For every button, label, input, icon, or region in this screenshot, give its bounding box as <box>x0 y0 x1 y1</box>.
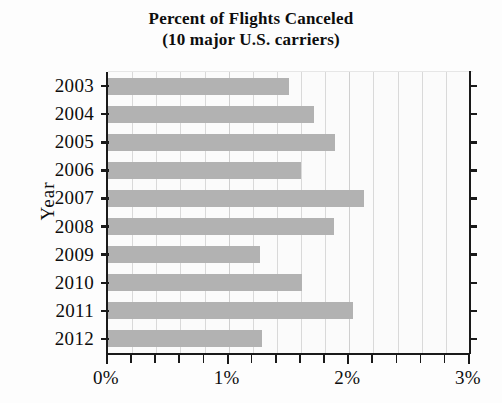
x-tick <box>154 355 156 363</box>
bar-2003 <box>108 78 289 95</box>
x-tick <box>420 355 422 363</box>
x-tick <box>444 355 446 363</box>
y-axis-tick-label-2003: 2003 <box>8 76 94 95</box>
bar-2004 <box>108 106 314 123</box>
y-tick-2003 <box>101 85 109 88</box>
y-axis-tick-label-2009: 2009 <box>8 245 94 264</box>
x-tick <box>275 355 277 363</box>
x-tick <box>203 355 205 363</box>
y-axis-tick-label-2007: 2007 <box>8 188 94 207</box>
gridline <box>446 72 447 353</box>
x-tick <box>323 355 325 363</box>
y-tick-2006 <box>101 169 109 172</box>
y-tick-2008 <box>101 225 109 228</box>
x-tick <box>347 355 349 364</box>
y-tick-right-2008 <box>469 225 477 228</box>
y-tick-2007 <box>101 197 109 200</box>
chart-title-line-1: Percent of Flights Canceled <box>149 9 354 28</box>
y-axis-tick-label-2004: 2004 <box>8 104 94 123</box>
y-tick-right-2011 <box>469 310 477 313</box>
x-tick <box>106 355 108 364</box>
y-tick-2011 <box>101 310 109 313</box>
bar-2012 <box>108 330 262 347</box>
x-axis-tick-label-0pct: 0% <box>71 367 141 389</box>
chart-figure: Percent of Flights Canceled (10 major U.… <box>0 0 502 403</box>
bar-2006 <box>108 162 301 179</box>
x-tick <box>371 355 373 363</box>
y-axis-tick-label-2011: 2011 <box>8 301 94 320</box>
bar-2008 <box>108 218 334 235</box>
y-axis-tick-label-2006: 2006 <box>8 160 94 179</box>
y-axis-tick-label-2008: 2008 <box>8 217 94 236</box>
bar-2011 <box>108 302 353 319</box>
y-tick-right-2004 <box>469 113 477 116</box>
y-axis-tick-label-2012: 2012 <box>8 329 94 348</box>
x-axis-tick-label-2pct: 2% <box>312 367 382 389</box>
x-tick <box>178 355 180 363</box>
y-tick-2009 <box>101 253 109 256</box>
x-axis-tick-label-1pct: 1% <box>192 367 262 389</box>
chart-title-line-2: (10 major U.S. carriers) <box>0 29 502 50</box>
y-tick-2012 <box>101 338 109 341</box>
bar-2005 <box>108 134 335 151</box>
gridline <box>373 72 374 353</box>
gridline <box>422 72 423 353</box>
x-axis: 0%1%2%3% <box>106 355 471 400</box>
y-axis-tick-label-2005: 2005 <box>8 132 94 151</box>
bar-2009 <box>108 246 260 263</box>
y-tick-right-2006 <box>469 169 477 172</box>
y-tick-right-2005 <box>469 141 477 144</box>
gridline <box>398 72 399 353</box>
x-tick <box>468 355 470 364</box>
y-tick-right-2003 <box>469 85 477 88</box>
plot-inner <box>108 72 470 353</box>
y-axis-tick-label-2010: 2010 <box>8 273 94 292</box>
y-tick-right-2010 <box>469 282 477 285</box>
y-tick-right-2009 <box>469 253 477 256</box>
bar-2007 <box>108 190 364 207</box>
chart-title: Percent of Flights Canceled (10 major U.… <box>0 8 502 50</box>
y-tick-2004 <box>101 113 109 116</box>
x-tick <box>396 355 398 363</box>
x-tick <box>227 355 229 364</box>
bar-2010 <box>108 274 302 291</box>
x-tick <box>130 355 132 363</box>
x-axis-tick-label-3pct: 3% <box>433 367 502 389</box>
x-tick <box>299 355 301 363</box>
y-tick-right-2007 <box>469 197 477 200</box>
plot-area: 2003200420052006200720082009201020112012 <box>106 72 470 355</box>
x-tick <box>251 355 253 363</box>
y-tick-right-2012 <box>469 338 477 341</box>
y-tick-2010 <box>101 282 109 285</box>
y-tick-2005 <box>101 141 109 144</box>
